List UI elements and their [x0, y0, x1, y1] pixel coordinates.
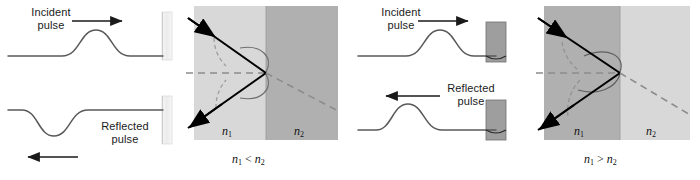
incident-pulse-waveform [8, 30, 163, 56]
incident-pulse-label-right: Incident pulse [364, 6, 438, 32]
incident-pulse-label: Incident pulse [14, 6, 88, 32]
physics-figure: Incident pulse Reflected pulse n1 n2 n1 … [0, 0, 700, 180]
reflected-pulse-label: Reflected pulse [88, 120, 162, 146]
medium-2-region [266, 6, 338, 140]
relation-label-left: n1 < n2 [232, 152, 265, 167]
fixed-end-wall-reflected [162, 96, 172, 144]
panel-denser-medium: Incident pulse Reflected pulse n1 n2 n1 … [0, 0, 350, 180]
refraction-diagram-left [186, 6, 340, 140]
refraction-diagram-right [536, 6, 692, 140]
medium-2-label-right: n2 [646, 124, 656, 139]
fixed-end-wall [162, 12, 172, 60]
medium-1-label: n1 [222, 124, 232, 139]
relation-label-right: n1 > n2 [584, 152, 617, 167]
medium-2-label: n2 [294, 124, 304, 139]
panel-rarer-medium: Incident pulse Reflected pulse n1 n2 n1 … [350, 0, 700, 180]
medium-1-label-right: n1 [574, 124, 584, 139]
medium-2-region-right [620, 6, 690, 140]
reflected-pulse-label-right: Reflected pulse [434, 82, 508, 108]
incident-pulse-waveform-free [358, 30, 496, 56]
